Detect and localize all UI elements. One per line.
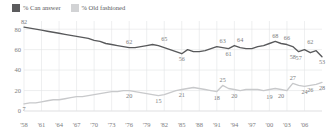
x-tick-73: '73	[108, 121, 116, 128]
x-axis-tick-labels: '58'61'64'67'70'73'76'79'82'85'88'91'94'…	[0, 121, 328, 135]
data-label-can-answer-2007: 62	[307, 38, 313, 45]
x-tick-88: '88	[195, 121, 203, 128]
x-tick-91: '91	[213, 121, 221, 128]
y-tick-40: 40	[15, 66, 22, 73]
data-label-can-answer-2001: 68	[272, 32, 278, 39]
y-tick-0: 0	[18, 107, 21, 114]
x-tick-76: '76	[125, 121, 133, 128]
data-label-old-fashioned-2004: 27	[290, 74, 296, 81]
x-tick-79: '79	[143, 121, 151, 128]
data-label-can-answer-1985: 56	[179, 55, 185, 62]
x-tick-00: '00	[266, 121, 274, 128]
data-label-can-answer-1958: 82	[21, 18, 27, 25]
data-label-can-answer-2005: 57	[296, 54, 302, 61]
data-label-can-answer-1976: 62	[126, 38, 132, 45]
data-label-old-fashioned-1991: 18	[214, 94, 220, 101]
x-tick-97: '97	[248, 121, 256, 128]
chart-container: % Can answer % Old fashioned 020406080 8…	[0, 0, 328, 138]
legend-label-can-answer: % Can answer	[23, 4, 61, 12]
y-tick-80: 80	[15, 26, 22, 33]
data-label-old-fashioned-2009: 28	[319, 84, 325, 91]
x-tick-85: '85	[178, 121, 186, 128]
legend-label-old-fashioned: % Old fashioned	[82, 4, 126, 12]
legend-swatch-icon-can-answer	[12, 4, 20, 12]
legend-item-can-answer: % Can answer	[12, 4, 61, 12]
data-label-old-fashioned-2007: 26	[307, 86, 313, 93]
x-tick-70: '70	[90, 121, 98, 128]
x-tick-03: '03	[283, 121, 291, 128]
chart-svg: 020406080 826265566361646866585762537201…	[0, 17, 328, 121]
x-tick-67: '67	[73, 121, 81, 128]
data-label-old-fashioned-2000: 19	[266, 93, 272, 100]
data-label-old-fashioned-1994: 20	[231, 92, 237, 99]
data-label-can-answer-2009: 53	[319, 58, 325, 65]
data-label-old-fashioned-1985: 21	[179, 91, 185, 98]
data-label-can-answer-1982: 65	[161, 35, 167, 42]
x-tick-82: '82	[160, 121, 168, 128]
data-label-old-fashioned-2002: 20	[278, 92, 284, 99]
data-label-old-fashioned-1976: 20	[126, 92, 132, 99]
data-label-old-fashioned-1981: 15	[155, 97, 161, 104]
data-label-can-answer-1992: 63	[220, 37, 226, 44]
data-label-old-fashioned-1958: 7	[22, 105, 25, 112]
x-tick-94: '94	[231, 121, 239, 128]
y-tick-20: 20	[15, 87, 22, 94]
x-tick-58: '58	[20, 121, 28, 128]
data-label-can-answer-1993: 61	[225, 50, 231, 57]
data-label-can-answer-1995: 64	[237, 36, 243, 43]
x-tick-64: '64	[55, 121, 63, 128]
x-tick-06: '06	[301, 121, 309, 128]
legend-swatch-icon-old-fashioned	[71, 4, 79, 12]
data-label-can-answer-2003: 66	[284, 34, 290, 41]
legend-item-old-fashioned: % Old fashioned	[71, 4, 126, 12]
y-axis-tick-labels: 020406080	[15, 26, 22, 115]
chart-legend: % Can answer % Old fashioned	[12, 2, 125, 13]
plot-area: 020406080 826265566361646866585762537201…	[0, 17, 328, 121]
x-tick-61: '61	[38, 121, 46, 128]
y-tick-60: 60	[15, 46, 22, 53]
data-label-old-fashioned-1992: 25	[220, 76, 226, 83]
